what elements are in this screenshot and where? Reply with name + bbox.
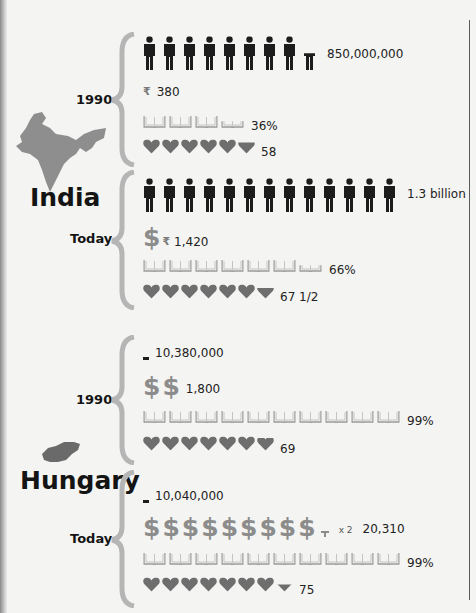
- person-icon: [203, 36, 216, 70]
- population-partial-icon: [143, 357, 149, 360]
- person-icon: [303, 178, 316, 212]
- person-icon: [163, 178, 176, 212]
- curly-brace: [110, 470, 136, 608]
- book-icon: [247, 258, 270, 272]
- literacy-icons: [143, 408, 403, 427]
- income-row: ₹ 380: [143, 85, 180, 98]
- country-name: India: [30, 183, 100, 212]
- person-icon: [343, 178, 356, 212]
- income-row: $ ₹ 1,420: [143, 225, 208, 250]
- population-value: 10,380,000: [155, 347, 224, 359]
- book-icon: [221, 409, 244, 423]
- population-row: 10,040,000: [143, 490, 224, 504]
- dollar-icon: $: [298, 521, 317, 540]
- life-expectancy-row: 58: [143, 139, 276, 158]
- right-rule-divider: [469, 20, 470, 600]
- life-expectancy-value: 75: [299, 584, 314, 596]
- india-map-icon: [12, 112, 110, 194]
- heart-icon: [200, 436, 217, 451]
- literacy-value: 36%: [251, 120, 278, 132]
- dollar-partial-icon: [321, 531, 329, 537]
- dollar-icon: $: [143, 225, 160, 250]
- book-icon: [273, 551, 296, 565]
- period-label: 1990: [76, 392, 112, 407]
- curly-brace: [110, 335, 136, 465]
- life-expectancy-row: 67 1/2: [143, 284, 318, 303]
- population-partial-icon: [143, 500, 149, 503]
- population-icons: [143, 36, 323, 74]
- person-icon: [283, 178, 296, 212]
- literacy-icons: [143, 113, 247, 132]
- book-icon: [195, 551, 218, 565]
- heart-icon: [162, 284, 179, 299]
- heart-icon: [143, 284, 160, 299]
- book-partial-icon: [299, 258, 322, 272]
- income-icons: $$$$$$$$$: [143, 515, 318, 540]
- book-icon: [325, 551, 348, 565]
- book-icon: [195, 114, 218, 128]
- person-icon: [203, 178, 216, 212]
- book-icon: [299, 409, 322, 423]
- heart-icon: [238, 436, 255, 451]
- literacy-row: 99%: [143, 550, 434, 569]
- dollar-icon: $: [162, 374, 179, 399]
- book-icon: [143, 409, 166, 423]
- dollar-icon: $: [143, 521, 162, 540]
- person-icon: [183, 36, 196, 70]
- heart-icon: [143, 436, 160, 451]
- heart-icon: [162, 436, 179, 451]
- income-value: 1,420: [174, 236, 208, 248]
- person-icon: [283, 36, 296, 70]
- literacy-value: 99%: [407, 415, 434, 427]
- dollar-icon: $: [182, 521, 201, 540]
- life-expectancy-value: 67 1/2: [280, 291, 318, 303]
- income-value: 380: [157, 86, 180, 98]
- heart-icon: [257, 577, 274, 592]
- literacy-value: 99%: [407, 557, 434, 569]
- heart-icon: [200, 139, 217, 154]
- person-icon: [323, 178, 336, 212]
- life-icons: [143, 139, 257, 158]
- person-partial-icon: [303, 36, 316, 70]
- heart-icon: [219, 284, 236, 299]
- book-icon: [299, 551, 322, 565]
- heart-icon: [143, 139, 160, 154]
- person-icon: [223, 178, 236, 212]
- heart-partial-icon: [257, 436, 274, 451]
- literacy-value: 66%: [329, 264, 356, 276]
- literacy-icons: [143, 550, 403, 569]
- heart-partial-icon: [276, 577, 293, 592]
- period-label: 1990: [76, 92, 112, 107]
- population-value: 850,000,000: [327, 48, 403, 60]
- hungary-map-icon: [40, 440, 82, 464]
- heart-icon: [238, 577, 255, 592]
- heart-icon: [143, 577, 160, 592]
- book-icon: [221, 551, 244, 565]
- dollar-icon: $: [162, 521, 181, 540]
- book-icon: [325, 409, 348, 423]
- literacy-row: 36%: [143, 113, 278, 132]
- dollar-icon: $: [279, 521, 298, 540]
- person-icon: [143, 36, 156, 70]
- life-icons: [143, 436, 276, 455]
- book-partial-icon: [221, 114, 244, 128]
- book-icon: [169, 409, 192, 423]
- rupee-icon: ₹: [143, 85, 151, 98]
- population-value: 10,040,000: [155, 490, 224, 502]
- life-icons: [143, 284, 276, 303]
- period-label: Today: [70, 231, 112, 246]
- book-icon: [377, 551, 400, 565]
- book-icon: [351, 409, 374, 423]
- dollar-icon: $: [259, 521, 278, 540]
- income-multiplier: x 2: [339, 525, 353, 535]
- income-row: $$$$$$$$$ x 2 20,310: [143, 515, 405, 540]
- population-row: 850,000,000: [143, 36, 403, 74]
- book-icon: [169, 551, 192, 565]
- heart-icon: [181, 577, 198, 592]
- literacy-row: 66%: [143, 257, 356, 276]
- book-icon: [143, 258, 166, 272]
- person-icon: [223, 36, 236, 70]
- book-icon: [273, 409, 296, 423]
- person-icon: [163, 36, 176, 70]
- heart-icon: [162, 577, 179, 592]
